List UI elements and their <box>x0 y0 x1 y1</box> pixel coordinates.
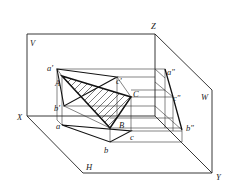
label-a-double-prime: a" <box>167 67 175 77</box>
w-plane <box>155 34 212 173</box>
label-A: A <box>54 78 61 88</box>
label-z-axis: Z <box>151 21 156 31</box>
label-c: c <box>130 132 134 142</box>
label-h-plane: H <box>85 162 93 172</box>
label-w-plane: W <box>201 92 209 102</box>
v-projection-triangle <box>57 69 117 106</box>
label-c-prime: c' <box>116 76 122 86</box>
label-b-double-prime: b" <box>186 123 194 133</box>
label-c-double-prime: c" <box>173 93 181 103</box>
label-b-prime: b' <box>54 103 60 113</box>
label-a: a <box>56 121 60 131</box>
label-b: b <box>104 145 108 155</box>
diagram-canvas: V H W X Y Z a' A c' C b' B a b c a" c" b… <box>0 0 233 191</box>
labels: V H W X Y Z a' A c' C b' B a b c a" c" b… <box>16 21 222 182</box>
projection-diagram: V H W X Y Z a' A c' C b' B a b c a" c" b… <box>0 0 233 191</box>
label-x-axis: X <box>16 112 23 122</box>
label-C: C <box>133 89 139 99</box>
label-y-axis: Y <box>216 172 222 182</box>
label-a-prime: a' <box>47 63 53 73</box>
label-B: B <box>119 120 124 130</box>
label-v-plane: V <box>30 38 37 48</box>
v-plane <box>27 34 155 116</box>
